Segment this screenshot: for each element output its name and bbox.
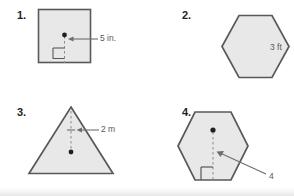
problem-1: 1. 5 in. bbox=[0, 0, 147, 98]
center-point-dot bbox=[210, 127, 215, 132]
measure-label-1: 5 in. bbox=[100, 33, 116, 43]
center-point-dot bbox=[62, 33, 67, 38]
measure-label-3: 2 m bbox=[101, 124, 115, 134]
center-point-dot bbox=[69, 150, 74, 155]
hexagon-shape bbox=[178, 112, 248, 180]
hexagon-apothem-figure bbox=[147, 98, 294, 196]
problem-3: 3. 2 m bbox=[0, 98, 147, 196]
measure-label-2: 3 ft bbox=[270, 42, 282, 52]
problem-4: 4. 4 bbox=[147, 98, 294, 196]
triangle-figure bbox=[0, 98, 147, 196]
measure-label-4: 4 bbox=[269, 171, 274, 181]
page-bottom-edge bbox=[0, 187, 294, 196]
square-figure bbox=[0, 0, 147, 98]
worksheet-page: 1. 5 in. 2. 3 ft 3. bbox=[0, 0, 294, 196]
problem-2: 2. 3 ft bbox=[147, 0, 294, 98]
